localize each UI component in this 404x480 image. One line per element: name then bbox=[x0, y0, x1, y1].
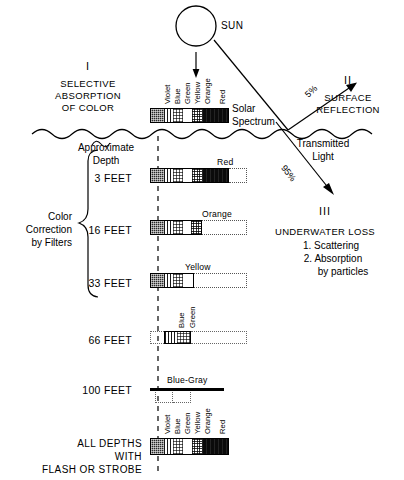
band-green bbox=[173, 109, 183, 122]
band-label-green-solar: Green bbox=[183, 82, 192, 104]
band-blue bbox=[164, 169, 173, 182]
absorbed-zone-16ft bbox=[202, 220, 247, 235]
depth-label-3ft: 3 FEET bbox=[48, 172, 132, 184]
band-orange bbox=[192, 439, 202, 454]
section-one-numeral: I bbox=[86, 60, 90, 73]
spectrum-bar-16ft bbox=[150, 220, 202, 235]
band-blue bbox=[164, 274, 173, 287]
band-label-blue-flash: Blue bbox=[173, 418, 182, 434]
absorbed-zone-33ft bbox=[194, 273, 247, 288]
band-green bbox=[177, 332, 190, 343]
band-label-yellow-solar: Yellow bbox=[193, 82, 202, 104]
flash-label-line2: WITH bbox=[16, 451, 142, 463]
band-label-red-solar: Red bbox=[218, 90, 227, 104]
depth-label-100ft: 100 FEET bbox=[48, 384, 132, 396]
band-red bbox=[202, 439, 228, 454]
color-correction-line3: by Filters bbox=[0, 237, 72, 249]
band-label-green-flash: Green bbox=[183, 412, 192, 434]
band-red bbox=[202, 169, 228, 182]
absorbed-zone-100ft-a bbox=[155, 392, 173, 403]
absorbed-label-3ft: Red bbox=[217, 157, 233, 167]
band-label-blue-solar: Blue bbox=[173, 88, 182, 104]
absorbed-zone-3ft bbox=[229, 168, 247, 183]
absorbed-zone-66ft-left bbox=[150, 331, 164, 344]
spectrum-bar-33ft bbox=[150, 273, 194, 288]
band-violet bbox=[151, 274, 164, 287]
absorbed-zone-100ft-b bbox=[173, 392, 191, 403]
section-one-line2: ABSORPTION bbox=[55, 90, 121, 101]
band-yellow bbox=[183, 221, 191, 234]
band-label-orange-flash: Orange bbox=[203, 408, 212, 434]
section-three-heading: UNDERWATER LOSS bbox=[275, 226, 375, 237]
spectrum-bar-flash bbox=[150, 438, 229, 455]
band-blue bbox=[164, 439, 173, 454]
diagram-canvas: SUN I SELECTIVE ABSORPTION OF COLOR II S… bbox=[0, 0, 404, 480]
band-violet bbox=[151, 221, 164, 234]
band-green bbox=[173, 221, 183, 234]
band-label-green-66ft: Green bbox=[188, 306, 197, 328]
absorbed-zone-66ft-right bbox=[191, 331, 247, 344]
spectrum-bar-3ft bbox=[150, 168, 229, 183]
solar-spectrum-label-line1: Solar bbox=[232, 103, 255, 115]
section-one-line3: OF COLOR bbox=[62, 102, 114, 113]
spectrum-bar-66ft bbox=[164, 331, 191, 344]
band-blue bbox=[164, 109, 173, 122]
transmitted-light-line1: Transmitted bbox=[297, 138, 349, 150]
band-violet bbox=[151, 109, 164, 122]
section-three-item2: 2. Absorption bbox=[304, 253, 362, 265]
band-orange bbox=[191, 221, 201, 234]
band-violet bbox=[151, 439, 164, 454]
band-label-violet-solar: Violet bbox=[163, 85, 172, 104]
depth-label-33ft: 33 FEET bbox=[48, 277, 132, 289]
absorbed-label-16ft: Orange bbox=[202, 209, 232, 219]
section-one-line1: SELECTIVE bbox=[60, 78, 115, 89]
band-orange bbox=[192, 109, 202, 122]
absorbed-label-33ft: Yellow bbox=[185, 262, 211, 272]
band-label-yellow-flash: Yellow bbox=[193, 412, 202, 434]
flash-label-line3: FLASH OR STROBE bbox=[16, 464, 142, 476]
band-orange bbox=[192, 169, 202, 182]
band-label-orange-solar: Orange bbox=[203, 78, 212, 104]
band-label-violet-flash: Violet bbox=[163, 415, 172, 434]
depth-label-16ft: 16 FEET bbox=[48, 224, 132, 236]
transmitted-light-line2: Light bbox=[312, 151, 334, 163]
section-three-item1: 1. Scattering bbox=[303, 240, 359, 252]
band-green bbox=[173, 274, 184, 287]
flash-label-line1: ALL DEPTHS bbox=[16, 438, 142, 450]
band-violet bbox=[151, 169, 164, 182]
section-two-line1: SURFACE bbox=[324, 92, 371, 103]
color-correction-line1: Color bbox=[0, 211, 72, 223]
absorbed-label-100ft: Blue-Gray bbox=[167, 375, 208, 385]
sun-down-arrow bbox=[193, 52, 200, 78]
approximate-depth-line1: Approximate bbox=[78, 142, 134, 154]
spectrum-bar-solar bbox=[150, 108, 229, 123]
band-yellow bbox=[183, 169, 191, 182]
section-three-item2b: by particles bbox=[318, 266, 369, 278]
spectrum-bar-100ft bbox=[150, 388, 224, 391]
depth-label-66ft: 66 FEET bbox=[48, 334, 132, 346]
band-red bbox=[202, 109, 228, 122]
band-label-red-flash: Red bbox=[218, 420, 227, 434]
band-green bbox=[173, 439, 183, 454]
band-yellow bbox=[183, 109, 191, 122]
sun-circle bbox=[176, 6, 216, 46]
sun-label: SUN bbox=[221, 20, 243, 32]
band-green bbox=[173, 169, 183, 182]
section-two-numeral: II bbox=[344, 74, 352, 87]
band-yellow bbox=[183, 439, 191, 454]
band-yellow bbox=[183, 274, 193, 287]
solar-spectrum-label-line2: Spectrum bbox=[232, 116, 275, 128]
band-blue bbox=[165, 332, 177, 343]
band-label-blue-66ft: Blue bbox=[177, 312, 186, 328]
section-two-line2: REFLECTION bbox=[316, 104, 380, 115]
section-three-numeral: III bbox=[319, 205, 331, 218]
approximate-depth-line2: Depth bbox=[93, 155, 120, 167]
band-blue bbox=[164, 221, 173, 234]
